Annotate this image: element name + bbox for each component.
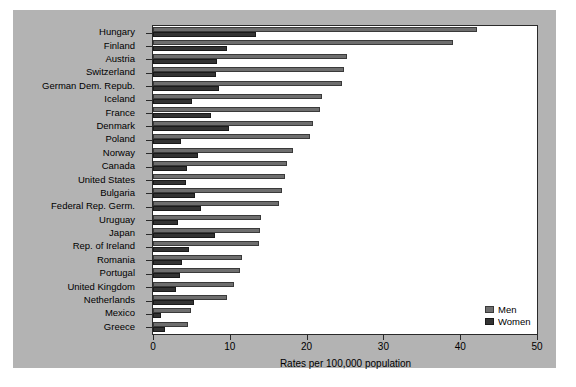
y-axis-tick [146, 126, 152, 127]
bar-women [153, 32, 256, 37]
y-axis-tick [146, 193, 152, 194]
y-axis-label-rep-of-ireland: Rep. of Ireland [73, 241, 135, 251]
x-axis-tick [383, 335, 384, 340]
y-axis-tick [146, 73, 152, 74]
y-axis-tick [146, 167, 152, 168]
y-axis-tick [146, 274, 152, 275]
y-axis-tick [146, 301, 152, 302]
bar-women [153, 273, 180, 278]
bar-women [153, 313, 161, 318]
y-axis-label-german-dem-repub: German Dem. Repub. [42, 81, 135, 91]
bar-group [153, 120, 537, 133]
y-axis-label-greece: Greece [104, 322, 135, 332]
bar-women [153, 287, 176, 292]
x-axis-tick-label-20: 20 [301, 341, 312, 352]
x-axis-tick [537, 335, 538, 340]
bar-group [153, 213, 537, 226]
legend-swatch-men-icon [485, 306, 494, 313]
y-axis-tick [146, 59, 152, 60]
y-axis-tick [146, 140, 152, 141]
legend-item-men: Men [485, 303, 531, 315]
chart-figure: HungaryFinlandAustriaSwitzerlandGerman D… [13, 10, 556, 368]
bar-women [153, 327, 165, 332]
y-axis-tick [146, 207, 152, 208]
bar-women [153, 153, 198, 158]
y-axis-label-austria: Austria [105, 54, 135, 64]
legend-label-women: Women [498, 316, 531, 327]
y-axis-tick [146, 314, 152, 315]
y-axis-label-mexico: Mexico [105, 308, 135, 318]
y-axis-tick [146, 247, 152, 248]
y-axis-label-romania: Romania [97, 255, 135, 265]
y-axis-label-united-states: United States [78, 175, 135, 185]
y-axis-tick [146, 153, 152, 154]
y-axis-label-canada: Canada [102, 161, 135, 171]
legend-label-men: Men [498, 304, 516, 315]
y-axis-label-japan: Japan [109, 228, 135, 238]
y-axis-label-portugal: Portugal [100, 268, 135, 278]
y-axis-tick [146, 180, 152, 181]
y-axis-label-hungary: Hungary [99, 27, 135, 37]
bar-women [153, 220, 178, 225]
bar-group [153, 53, 537, 66]
y-axis-label-netherlands: Netherlands [84, 295, 135, 305]
bar-group [153, 147, 537, 160]
bar-women [153, 300, 194, 305]
y-axis-tick [146, 100, 152, 101]
y-axis-label-federal-rep-germ: Federal Rep. Germ. [51, 201, 135, 211]
bar-group [153, 187, 537, 200]
bar-women [153, 72, 216, 77]
bar-group [153, 133, 537, 146]
bar-group [153, 227, 537, 240]
bar-group [153, 80, 537, 93]
y-axis-label-poland: Poland [105, 134, 135, 144]
x-axis-tick-label-50: 50 [531, 341, 542, 352]
bar-group [153, 267, 537, 280]
x-axis-tick-labels: 01020304050 [152, 341, 539, 355]
x-axis-tick [307, 335, 308, 340]
bar-group [153, 307, 537, 320]
bar-women [153, 46, 227, 51]
bar-group [153, 280, 537, 293]
y-axis-tick [146, 220, 152, 221]
y-axis-labels: HungaryFinlandAustriaSwitzerlandGerman D… [13, 26, 147, 334]
bar-women [153, 180, 186, 185]
y-axis-tick [146, 327, 152, 328]
bar-women [153, 86, 219, 91]
legend-item-women: Women [485, 315, 531, 327]
x-axis-tick [153, 335, 154, 340]
x-axis-tick-label-0: 0 [150, 341, 156, 352]
y-axis-label-france: France [105, 108, 135, 118]
bar-group [153, 160, 537, 173]
legend-swatch-women-icon [485, 318, 494, 325]
bar-women [153, 139, 181, 144]
y-axis-label-bulgaria: Bulgaria [100, 188, 135, 198]
y-axis-label-uruguay: Uruguay [99, 215, 135, 225]
x-axis-title: Rates per 100,000 population [152, 358, 539, 369]
y-axis-tick [146, 234, 152, 235]
bar-women [153, 99, 192, 104]
bar-group [153, 93, 537, 106]
bar-group [153, 254, 537, 267]
bar-group [153, 200, 537, 213]
y-axis-label-denmark: Denmark [96, 121, 135, 131]
bar-group [153, 66, 537, 79]
y-axis-label-finland: Finland [104, 41, 135, 51]
y-axis-label-switzerland: Switzerland [86, 67, 135, 77]
bar-women [153, 247, 189, 252]
bar-women [153, 233, 215, 238]
bar-group [153, 26, 537, 39]
y-axis-tick [146, 113, 152, 114]
bar-women [153, 166, 187, 171]
x-axis-tick-label-40: 40 [455, 341, 466, 352]
y-axis-tick [146, 287, 152, 288]
bar-rows [153, 26, 537, 334]
y-axis-label-norway: Norway [103, 148, 135, 158]
y-axis-label-united-kingdom: United Kingdom [67, 282, 135, 292]
bar-group [153, 294, 537, 307]
bar-women [153, 193, 195, 198]
y-axis-tick [146, 46, 152, 47]
bar-group [153, 106, 537, 119]
chart-legend: Men Women [485, 303, 531, 327]
bar-group [153, 173, 537, 186]
